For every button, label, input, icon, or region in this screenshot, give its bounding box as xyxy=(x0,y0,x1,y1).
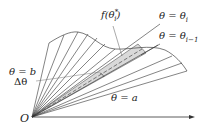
theta-i-minus-1-label: θ = θi−1 xyxy=(159,31,198,44)
theta-a-label: θ = a xyxy=(111,93,138,103)
origin-label: O xyxy=(20,113,29,124)
theta-i1-leader xyxy=(141,44,160,55)
shaded-sector xyxy=(32,44,146,117)
f-theta-star-label: f(θ*i) xyxy=(101,9,120,23)
polar-area-diagram: O θ = b Δθ θ = a θ = θi θ = θi−1 f(θ*i) xyxy=(0,0,208,131)
theta-i-label: θ = θi xyxy=(159,11,188,24)
x-axis-arrow-icon xyxy=(189,115,195,119)
f-theta-leader xyxy=(113,26,122,56)
delta-theta-label: Δθ xyxy=(14,77,27,87)
